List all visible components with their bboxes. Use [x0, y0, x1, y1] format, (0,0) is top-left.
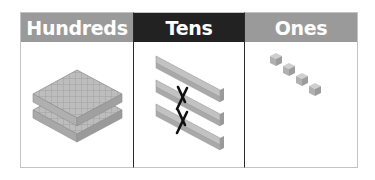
hundreds-column: Hundreds [20, 12, 133, 168]
unit-cube [309, 83, 321, 96]
ones-column: Ones [245, 12, 358, 168]
tens-column: Tens [133, 12, 245, 168]
hundred-flats-icon [21, 42, 132, 167]
hundreds-cell [21, 42, 133, 167]
ones-cell [245, 42, 357, 167]
place-value-chart: Hundreds [20, 12, 358, 168]
ten-rods-icon [134, 42, 244, 167]
unit-cubes-icon [245, 42, 356, 167]
ones-header: Ones [245, 13, 357, 42]
unit-cube [296, 73, 308, 86]
tens-header: Tens [134, 13, 244, 42]
unit-cube [283, 63, 295, 76]
unit-cube [270, 53, 282, 66]
hundreds-header: Hundreds [21, 13, 133, 42]
tens-cell [134, 42, 244, 167]
